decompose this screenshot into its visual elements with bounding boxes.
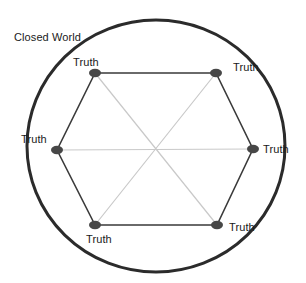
- boundary-circle: [27, 20, 285, 272]
- diagonal-line-3: [57, 149, 253, 150]
- node-right-label: Truth: [263, 143, 289, 155]
- node-left-label: Truth: [21, 133, 47, 145]
- closed-world-diagram: Closed World TruthTruthTruthTruthTruthTr…: [0, 0, 306, 283]
- closed-world-circle: [27, 20, 285, 272]
- node-top-right[interactable]: [210, 69, 222, 77]
- hexagon-edge-6: [57, 73, 95, 150]
- node-top-right-label: Truth: [233, 61, 259, 73]
- hexagon-edge-2: [216, 73, 253, 149]
- node-bottom-left[interactable]: [89, 221, 101, 229]
- node-left[interactable]: [51, 146, 63, 154]
- diagonal-lines-group: [57, 73, 253, 225]
- closed-world-label: Closed World: [14, 31, 81, 43]
- node-top-left[interactable]: [89, 69, 101, 77]
- node-right[interactable]: [247, 145, 259, 153]
- hexagon-edge-5: [57, 150, 95, 225]
- node-top-left-label: Truth: [73, 56, 99, 68]
- node-bottom-left-label: Truth: [86, 233, 112, 245]
- hexagon-edge-3: [217, 149, 253, 225]
- node-bottom-right[interactable]: [211, 221, 223, 229]
- node-bottom-right-label: Truth: [229, 221, 255, 233]
